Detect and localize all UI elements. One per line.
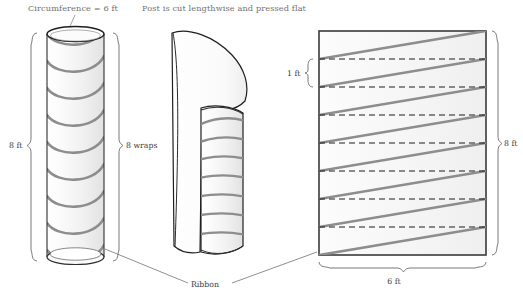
band-height-brace: 1 ft bbox=[287, 59, 313, 87]
brace-path bbox=[27, 33, 37, 261]
cylinder-top-inner-ellipse bbox=[51, 30, 101, 41]
flattened-rectangle-figure: 1 ft 8 ft 6 ft bbox=[287, 31, 518, 286]
brace-path bbox=[319, 262, 486, 272]
ribbon-label: Ribbon bbox=[191, 280, 219, 289]
peeled-post-figure bbox=[172, 31, 247, 254]
band-height-label: 1 ft bbox=[287, 69, 301, 78]
figure-canvas: Circumference = 6 ft Post is cut lengthw… bbox=[0, 0, 523, 296]
brace-path bbox=[113, 33, 123, 261]
cylinder-height-brace: 8 ft bbox=[9, 33, 37, 261]
cut-note-label: Post is cut lengthwise and pressed flat bbox=[142, 3, 307, 13]
rectangle-height-brace: 8 ft bbox=[492, 31, 518, 255]
brace-path bbox=[492, 31, 502, 255]
brace-path bbox=[305, 59, 313, 87]
circumference-label: Circumference = 6 ft bbox=[28, 3, 119, 13]
ribbon-leader-left bbox=[105, 249, 188, 283]
cylinder-wraps-label: 8 wraps bbox=[126, 141, 157, 150]
rectangle-width-brace: 6 ft bbox=[319, 262, 486, 286]
ribbon-wrapped-post-diagram: Circumference = 6 ft Post is cut lengthw… bbox=[0, 0, 523, 296]
rectangle-width-label: 6 ft bbox=[387, 277, 401, 286]
cylinder-bottom-inner-ellipse bbox=[50, 248, 101, 260]
rectangle-height-label: 8 ft bbox=[504, 139, 518, 148]
ribbon-leader-right bbox=[232, 252, 317, 283]
cylinder-wraps-brace: 8 wraps bbox=[113, 33, 157, 261]
annotation-cut-note: Post is cut lengthwise and pressed flat bbox=[142, 3, 307, 13]
cylinder-figure: 8 ft 8 wraps bbox=[9, 27, 157, 265]
ribbon-callout: Ribbon bbox=[105, 249, 317, 289]
cylinder-height-label: 8 ft bbox=[9, 141, 23, 150]
